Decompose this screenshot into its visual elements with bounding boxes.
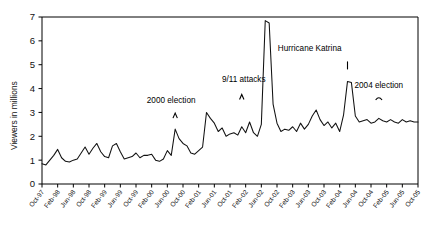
annotation-pointer-icon [376, 98, 382, 100]
annotation-pointer-icon [173, 113, 177, 118]
x-tick-label: Jun-99 [106, 188, 124, 208]
y-tick-label: 4 [30, 83, 35, 94]
y-tick-label: 3 [30, 107, 35, 118]
y-axis-ticks: 01234567 [30, 11, 42, 189]
line-chart: Viewers in millions 01234567 Oct-97Feb-9… [0, 0, 426, 228]
x-tick-label: Feb-01 [184, 188, 203, 209]
chart-annotation-label: 9/11 attacks [222, 75, 266, 84]
axis-frame [42, 17, 418, 184]
chart-annotation-label: 2004 election [354, 81, 403, 90]
x-tick-label: Jun-98 [59, 188, 77, 208]
chart-annotation-label: 2000 election [147, 96, 196, 105]
y-tick-label: 5 [30, 59, 35, 70]
x-tick-label: Jun-00 [153, 188, 171, 208]
chart-annotation-label: Hurricane Katrina [278, 44, 342, 53]
y-tick-label: 6 [30, 35, 35, 46]
chart-container: Viewers in millions 01234567 Oct-97Feb-9… [0, 0, 426, 228]
x-tick-label: Feb-02 [231, 188, 250, 209]
data-series-line [42, 21, 418, 165]
y-axis-label: Viewers in millions [9, 81, 19, 150]
x-tick-label: Jun-01 [200, 188, 218, 208]
y-tick-label: 7 [30, 11, 35, 22]
x-tick-label: Feb-05 [372, 188, 391, 209]
x-tick-label: Oct-05 [404, 188, 422, 208]
y-tick-label: 2 [30, 131, 35, 142]
x-tick-label: Jun-02 [247, 188, 265, 208]
x-tick-label: Jun-04 [341, 188, 359, 208]
x-axis-ticks: Oct-97Feb-98Jun-98Oct-98Feb-99Jun-99Oct-… [28, 184, 422, 209]
x-tick-label: Feb-98 [43, 188, 62, 209]
y-tick-label: 1 [30, 155, 35, 166]
annotation-group: 2000 election9/11 attacksInvasion of Ira… [147, 0, 404, 118]
x-tick-label: Feb-04 [325, 188, 344, 209]
x-tick-label: Jun-05 [388, 188, 406, 208]
x-tick-label: Jun-03 [294, 188, 312, 208]
x-tick-label: Feb-00 [137, 188, 156, 209]
x-tick-label: Feb-99 [90, 188, 109, 209]
annotation-pointer-icon [240, 94, 244, 99]
x-tick-label: Feb-03 [278, 188, 297, 209]
y-tick-label: 0 [30, 178, 35, 189]
